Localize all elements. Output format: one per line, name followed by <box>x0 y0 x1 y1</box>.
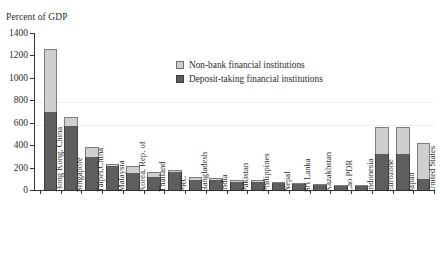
legend-item-nonbank: Non-bank financial institutions <box>176 58 323 71</box>
y-axis-tick <box>30 78 34 79</box>
y-axis-tick-label: 0 <box>23 185 28 195</box>
y-axis-tick <box>30 145 34 146</box>
y-axis-tick-label: 1000 <box>9 73 28 83</box>
x-axis-tick-label: India <box>219 174 229 192</box>
chart-container: Percent of GDP 0200400600800100012001400… <box>0 0 440 277</box>
x-axis-tick-label: Eurozone <box>385 159 395 192</box>
x-axis-tick-label: Indonesia <box>365 159 375 192</box>
x-axis-tick-label: Hong Kong, China <box>54 127 64 192</box>
x-axis-labels: Hong Kong, ChinaSingaporeTaipei,ChinaMal… <box>34 192 434 277</box>
bar-segment-nonbank[interactable] <box>44 49 58 111</box>
x-axis-tick-label: Taipei,China <box>95 148 105 192</box>
y-axis-tick <box>30 168 34 169</box>
legend-item-deposit: Deposit-taking financial institutions <box>176 72 323 85</box>
chart-legend: Non-bank financial institutions Deposit-… <box>176 58 323 86</box>
y-axis-tick <box>30 55 34 56</box>
x-axis-tick-label: Japan <box>406 172 416 192</box>
x-axis-tick-label: Bangladesh <box>199 152 209 192</box>
y-axis-tick-label: 400 <box>14 140 28 150</box>
y-axis-tick-label: 200 <box>14 163 28 173</box>
x-axis-tick-label: Sri Lanka <box>302 158 312 192</box>
bar-segment-nonbank[interactable] <box>64 117 78 125</box>
x-axis-tick-label: Lao PDR <box>344 160 354 192</box>
x-axis-tick-label: Philippines <box>261 153 271 192</box>
bar-segment-nonbank[interactable] <box>396 127 410 154</box>
bar-segment-nonbank[interactable] <box>375 127 389 154</box>
y-axis-tick-label: 600 <box>14 118 28 128</box>
x-axis-tick-label: Thailand <box>157 161 167 192</box>
y-axis-tick <box>30 100 34 101</box>
y-axis-tick <box>30 190 34 191</box>
x-axis-tick-label: Singapore <box>74 157 84 192</box>
x-axis-tick-label: Malaysia <box>116 160 126 192</box>
y-axis-tick <box>30 33 34 34</box>
y-axis-tick-label: 1400 <box>9 28 28 38</box>
legend-label-nonbank: Non-bank financial institutions <box>189 60 305 70</box>
legend-swatch-nonbank-icon <box>176 61 184 69</box>
x-axis-tick-label: Pakistan <box>240 163 250 192</box>
y-axis-tick-label: 1200 <box>9 50 28 60</box>
legend-swatch-deposit-icon <box>176 75 184 83</box>
x-axis-tick-label: Kazakhstan <box>323 152 333 192</box>
legend-label-deposit: Deposit-taking financial institutions <box>189 74 323 84</box>
y-axis-tick-label: 800 <box>14 95 28 105</box>
x-axis-tick-label: Korea, Rep. of <box>137 141 147 192</box>
y-axis-tick <box>30 123 34 124</box>
x-axis-tick-label: Nepal <box>282 171 292 192</box>
x-axis-tick-label: PRC <box>178 176 188 192</box>
x-axis-tick-label: United States <box>427 146 437 192</box>
y-axis-title: Percent of GDP <box>6 12 68 22</box>
